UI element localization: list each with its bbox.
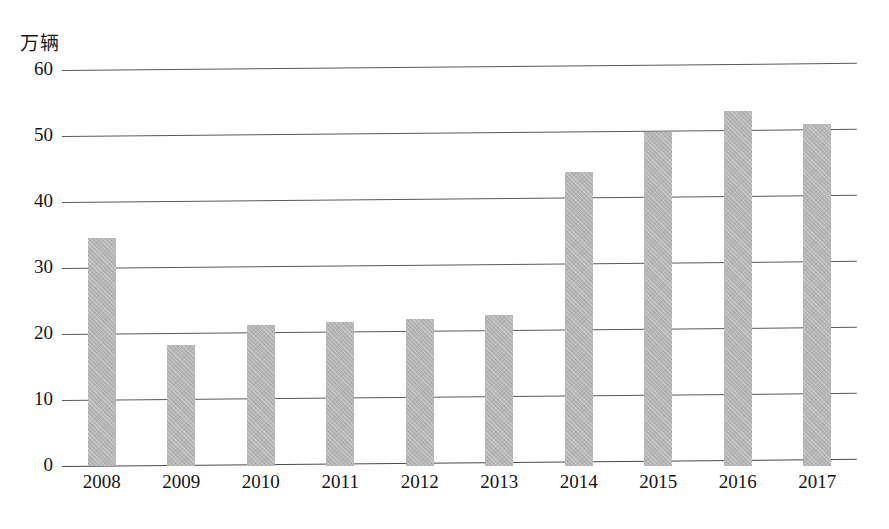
bar [326,322,354,466]
gridline-row: 0 [62,466,857,467]
bar [565,172,593,466]
y-axis-tick-label: 60 [34,59,53,79]
bar [644,132,672,466]
bar [88,238,116,466]
y-axis-tick-label: 40 [34,191,53,211]
x-axis-tick-labels: 2008200920102011201220132014201520162017 [62,470,857,500]
y-axis-tick-label: 10 [34,389,53,409]
y-axis-unit-label: 万辆 [20,28,60,55]
y-axis-tick-label: 0 [44,455,54,475]
y-axis-tick-label: 30 [34,257,53,277]
x-axis-tick-label: 2009 [146,470,216,494]
caption-partial [0,517,889,529]
bar [724,111,752,466]
x-axis-tick-label: 2010 [226,470,296,494]
x-axis-tick-label: 2011 [305,470,375,494]
x-axis-tick-label: 2013 [464,470,534,494]
x-axis-tick-label: 2016 [703,470,773,494]
bar [803,124,831,466]
x-axis-tick-label: 2012 [385,470,455,494]
bar-chart: 万辆 0102030405060 20082009201020112012201… [0,0,889,529]
y-axis-tick-label: 20 [34,323,53,343]
x-axis-tick-label: 2015 [623,470,693,494]
bar [485,315,513,466]
bar [247,325,275,466]
bar [406,319,434,466]
bar-series [62,70,857,466]
x-axis-tick-label: 2017 [782,470,852,494]
x-axis-tick-label: 2014 [544,470,614,494]
plot-area: 0102030405060 [62,70,857,466]
bar [167,345,195,466]
y-axis-tick-label: 50 [34,125,53,145]
x-axis-tick-label: 2008 [67,470,137,494]
